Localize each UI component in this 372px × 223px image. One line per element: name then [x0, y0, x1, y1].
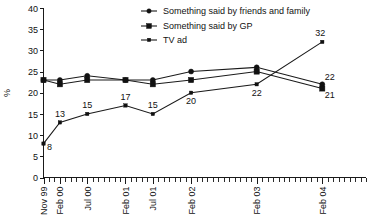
data-point-square[interactable]: [188, 77, 193, 82]
data-point-square[interactable]: [57, 82, 62, 87]
x-tick-label: Feb 04: [318, 187, 328, 215]
data-point-small-square[interactable]: [124, 104, 127, 107]
data-label: 8: [47, 142, 52, 152]
y-axis-title: %: [2, 89, 12, 97]
data-label: 22: [252, 88, 262, 98]
data-point-small-square[interactable]: [86, 112, 89, 115]
x-tick-label: Jul 01: [148, 187, 158, 211]
x-tick-label: Feb 01: [121, 187, 131, 215]
line-chart: 40 35 30 25 20 15 10 5 0 % Nov 99Feb 00J…: [0, 0, 372, 223]
y-tick-label: 35: [28, 25, 38, 35]
data-point-small-square[interactable]: [255, 83, 258, 86]
circle-marker-icon: [147, 9, 151, 13]
data-point-square[interactable]: [41, 77, 46, 82]
data-point-square[interactable]: [85, 77, 90, 82]
legend-label: Something said by friends and family: [163, 6, 311, 16]
data-point-square[interactable]: [150, 82, 155, 87]
y-tick-label: 0: [33, 173, 38, 183]
small-square-marker-icon: [147, 38, 150, 41]
data-label: 17: [120, 92, 130, 102]
legend-label: Something said by GP: [163, 21, 253, 31]
legend-item-friends-family[interactable]: Something said by friends and family: [141, 6, 311, 16]
y-tick-label: 5: [33, 152, 38, 162]
x-tick-label: Feb 03: [252, 187, 262, 215]
data-point-circle[interactable]: [189, 69, 194, 74]
data-label: 20: [186, 96, 196, 106]
data-point-square[interactable]: [123, 77, 128, 82]
data-point-small-square[interactable]: [151, 112, 154, 115]
x-tick-label: Nov 99: [39, 187, 49, 216]
data-label: 32: [315, 28, 325, 38]
data-label: 15: [82, 100, 92, 110]
data-label: 13: [55, 109, 65, 119]
data-point-small-square[interactable]: [189, 91, 192, 94]
x-tick-label: Jul 00: [83, 187, 93, 211]
y-tick-label: 20: [28, 88, 38, 98]
x-tick-label: Feb 02: [187, 187, 197, 215]
data-point-square[interactable]: [254, 69, 259, 74]
square-marker-icon: [147, 24, 152, 29]
data-point-small-square[interactable]: [321, 40, 324, 43]
data-label: 15: [148, 100, 158, 110]
chart-container: 40 35 30 25 20 15 10 5 0 % Nov 99Feb 00J…: [0, 0, 372, 223]
y-tick-label: 30: [28, 46, 38, 56]
data-label: 22: [325, 72, 335, 82]
data-point-small-square[interactable]: [58, 121, 61, 124]
data-label: 21: [325, 90, 335, 100]
legend-label: TV ad: [163, 35, 187, 45]
y-tick-label: 10: [28, 131, 38, 141]
y-tick-label: 40: [28, 4, 38, 14]
y-tick-label: 25: [28, 67, 38, 77]
y-tick-label: 15: [28, 110, 38, 120]
x-tick-label: Feb 00: [55, 187, 65, 215]
data-point-small-square[interactable]: [42, 142, 45, 145]
